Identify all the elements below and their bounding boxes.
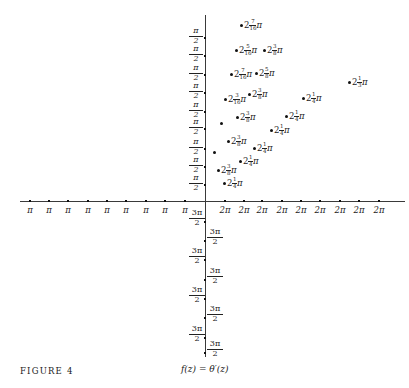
label-pi: π	[241, 136, 247, 146]
data-point	[248, 93, 251, 96]
x-tick-label: π	[98, 205, 116, 215]
x-tick-label: 2π	[253, 205, 271, 215]
label-pi: π	[240, 94, 246, 104]
fraction-denominator: 2	[189, 257, 205, 266]
label-pi: π	[299, 111, 305, 121]
label-pi: π	[256, 20, 262, 30]
x-tick-marker	[319, 200, 321, 202]
data-point	[253, 147, 256, 150]
y-tick-label: 3π2	[207, 340, 223, 358]
data-point-label: 214π	[274, 124, 290, 136]
y-tick-label: π2	[189, 118, 203, 136]
data-point	[235, 49, 238, 52]
x-tick-label: π	[117, 205, 135, 215]
x-tick-label: 2π	[331, 205, 349, 215]
x-tick-label: 2π	[350, 205, 368, 215]
y-tick-label: π2	[189, 156, 203, 174]
y-tick-marker	[204, 184, 206, 186]
label-pi: π	[262, 89, 268, 99]
fraction-denominator: 2	[189, 128, 203, 137]
y-tick-marker	[204, 92, 206, 94]
y-tick-label: π2	[189, 45, 203, 63]
x-tick-label: 2π	[273, 205, 291, 215]
x-tick-marker	[48, 200, 50, 202]
data-point-label: 2716π	[234, 68, 252, 80]
x-tick-label: π	[59, 205, 77, 215]
x-tick-label: 2π	[292, 205, 310, 215]
x-tick-marker	[281, 200, 283, 202]
data-point-label: 238π	[252, 88, 268, 100]
data-point	[348, 81, 351, 84]
y-tick-marker	[204, 240, 206, 242]
data-point	[240, 24, 243, 27]
label-pi: π	[237, 178, 243, 188]
y-tick-label: π2	[189, 174, 203, 192]
x-tick-label: 2π	[216, 205, 234, 215]
fraction-denominator: 2	[207, 350, 223, 359]
fraction-denominator: 2	[207, 277, 223, 286]
y-tick-label: 3π2	[207, 228, 223, 246]
label-pi: π	[253, 156, 259, 166]
data-point	[230, 73, 233, 76]
y-tick-label: π2	[189, 82, 203, 100]
data-point	[224, 98, 227, 101]
fraction-denominator: 2	[189, 219, 205, 228]
data-point-label: 214π	[243, 155, 259, 167]
x-tick-marker	[261, 200, 263, 202]
figure-caption: f(z) = θ′(z)	[181, 364, 229, 374]
data-point	[263, 49, 266, 52]
data-point-label: 258π	[259, 67, 275, 79]
fraction-denominator: 2	[189, 92, 203, 101]
x-tick-marker	[224, 200, 226, 202]
label-pi: π	[250, 112, 256, 122]
x-tick-label: π	[21, 205, 39, 215]
data-point-label: 238π	[221, 164, 237, 176]
data-point	[217, 169, 220, 172]
fraction-denominator: 2	[189, 335, 205, 344]
y-tick-label: 3π2	[189, 325, 205, 343]
label-pi: π	[284, 125, 290, 135]
label-pi: π	[231, 165, 237, 175]
data-point-label: 2516π	[239, 44, 257, 56]
data-point	[223, 182, 226, 185]
fraction-denominator: 2	[207, 315, 223, 324]
data-point-label: 2316π	[228, 93, 246, 105]
fraction-denominator: 2	[189, 184, 203, 193]
x-tick-marker	[29, 200, 31, 202]
label-pi: π	[269, 68, 275, 78]
x-tick-marker	[378, 200, 380, 202]
label-pi: π	[362, 77, 368, 87]
figure-label: FIGURE 4	[20, 366, 74, 376]
y-tick-label: 3π2	[189, 209, 205, 227]
x-tick-label: π	[137, 205, 155, 215]
data-point	[255, 72, 258, 75]
y-tick-label: π2	[189, 64, 203, 82]
x-tick-marker	[164, 200, 166, 202]
y-tick-marker	[204, 317, 206, 319]
y-axis	[205, 15, 206, 357]
y-tick-label: 3π2	[207, 267, 223, 285]
fraction-denominator: 2	[189, 55, 203, 64]
data-point	[236, 116, 239, 119]
x-tick-label: π	[40, 205, 58, 215]
x-tick-label: π	[79, 205, 97, 215]
data-point	[239, 160, 242, 163]
y-tick-marker	[204, 279, 206, 281]
y-tick-marker	[204, 166, 206, 168]
x-tick-marker	[125, 200, 127, 202]
y-tick-marker	[204, 128, 206, 130]
y-tick-marker	[204, 111, 206, 113]
data-point	[213, 151, 216, 154]
data-point	[220, 122, 223, 125]
data-point-label: 238π	[240, 111, 256, 123]
y-tick-label: 3π2	[207, 305, 223, 323]
data-point-label: 214π	[306, 92, 322, 104]
data-point-label: 2716π	[244, 19, 262, 31]
y-tick-marker	[204, 55, 206, 57]
data-point-label: 238π	[267, 44, 283, 56]
y-tick-marker	[204, 74, 206, 76]
data-point-label: 214π	[289, 110, 305, 122]
y-tick-label: 3π2	[189, 247, 205, 265]
x-tick-marker	[358, 200, 360, 202]
y-tick-marker	[204, 148, 206, 150]
